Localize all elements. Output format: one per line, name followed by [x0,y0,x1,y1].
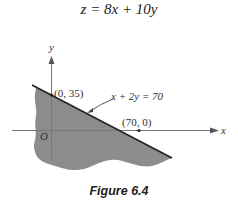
point-70-0 [137,129,140,132]
y-axis-arrow-icon [49,56,55,64]
constraint-equation-label: x + 2y = 70 [110,90,164,102]
x-axis-arrow-icon [210,128,219,134]
y-axis-label: y [48,41,54,53]
origin-label: O [40,130,48,142]
x-axis-label: x [220,124,226,136]
graph: y x O (0, 35) (70, 0) x + 2y = 70 [0,0,238,207]
intercept-label-y: (0, 35) [54,87,84,100]
point-0-35 [50,93,53,96]
intercept-label-x: (70, 0) [122,116,152,129]
label-pointer-arrowhead-icon [87,108,93,113]
figure-caption: Figure 6.4 [0,184,238,198]
